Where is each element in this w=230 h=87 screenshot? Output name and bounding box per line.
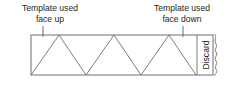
discard-label: Discard <box>201 40 211 69</box>
triangle-cut-lines <box>31 35 196 75</box>
discard-brace <box>215 34 217 76</box>
label-face-down-line1: Template used <box>154 3 210 13</box>
diagram-canvas: Template used face up Template used face… <box>0 0 230 87</box>
fabric-strip-outline <box>31 35 213 75</box>
label-face-up-line2: face up <box>36 14 64 24</box>
label-face-down-line2: face down <box>162 14 201 24</box>
cutting-layout-diagram: Template used face up Template used face… <box>0 0 230 87</box>
label-face-up-line1: Template used <box>22 3 78 13</box>
